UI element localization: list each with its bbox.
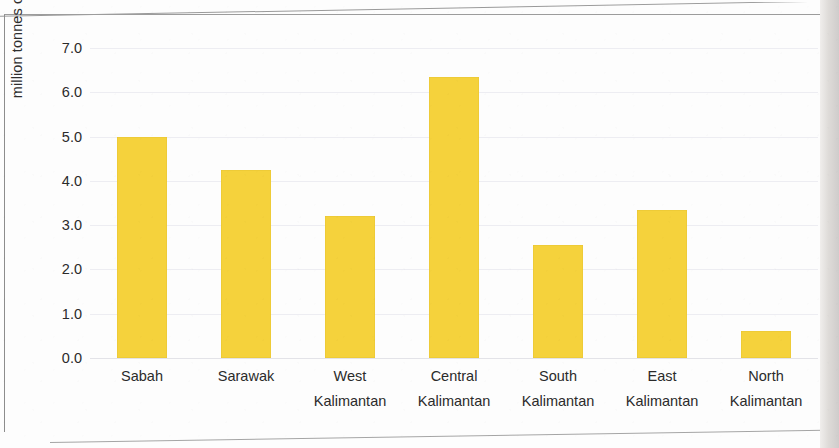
- bar-slot: [194, 48, 298, 358]
- x-axis-category-label-line1: South: [506, 364, 610, 389]
- x-axis-category-label-line1: Sarawak: [194, 364, 298, 389]
- y-axis-tick-label: 1.0: [42, 307, 82, 322]
- x-axis-category-label: Sabah: [90, 364, 194, 389]
- bar-slot: [402, 48, 506, 358]
- x-axis-category-label: CentralKalimantan: [402, 364, 506, 414]
- bar: [221, 170, 271, 358]
- x-axis-category-label-line2: Kalimantan: [506, 389, 610, 414]
- plot-area: [90, 48, 818, 358]
- bar-slot: [714, 48, 818, 358]
- x-axis-category-label-line2: Kalimantan: [402, 389, 506, 414]
- bar: [637, 210, 687, 358]
- x-axis-category-label-line1: North: [714, 364, 818, 389]
- y-axis-tick-label: 0.0: [42, 351, 82, 366]
- bar-slot: [298, 48, 402, 358]
- x-axis-category-label-line2: Kalimantan: [714, 389, 818, 414]
- bar-slot: [90, 48, 194, 358]
- bar: [117, 137, 167, 358]
- x-axis-category-label: NorthKalimantan: [714, 364, 818, 414]
- y-axis-title-text: million tonnes of CPO: [9, 0, 25, 98]
- y-axis-tick-label: 2.0: [42, 262, 82, 277]
- x-axis-category-label-line1: East: [610, 364, 714, 389]
- y-axis-tick-labels: 7.06.05.04.03.02.01.00.0: [38, 48, 82, 358]
- y-axis-tick-label: 3.0: [42, 218, 82, 233]
- bar: [429, 77, 479, 358]
- y-axis-title: million tonnes of CPO: [6, 0, 28, 58]
- bar: [533, 245, 583, 358]
- x-axis-category-label: SouthKalimantan: [506, 364, 610, 414]
- bar-series: [90, 48, 818, 358]
- x-axis-category-label: WestKalimantan: [298, 364, 402, 414]
- bar: [325, 216, 375, 358]
- y-axis-tick-label: 7.0: [42, 41, 82, 56]
- x-axis-category-label-line1: Sabah: [90, 364, 194, 389]
- x-axis-category-labels: SabahSarawakWestKalimantanCentralKaliman…: [90, 364, 818, 422]
- y-axis-tick-label: 6.0: [42, 85, 82, 100]
- y-axis-tick-label: 5.0: [42, 130, 82, 145]
- bar-slot: [610, 48, 714, 358]
- x-axis-category-label-line1: West: [298, 364, 402, 389]
- x-axis-category-label: Sarawak: [194, 364, 298, 389]
- y-axis-tick-label: 4.0: [42, 174, 82, 189]
- x-axis-category-label-line2: Kalimantan: [298, 389, 402, 414]
- x-axis-category-label-line1: Central: [402, 364, 506, 389]
- gridline: [90, 358, 818, 359]
- x-axis-category-label-line2: Kalimantan: [610, 389, 714, 414]
- x-axis-category-label: EastKalimantan: [610, 364, 714, 414]
- bar-slot: [506, 48, 610, 358]
- chart-screenshot: million tonnes of CPO 7.06.05.04.03.02.0…: [0, 0, 839, 448]
- bar: [741, 331, 791, 358]
